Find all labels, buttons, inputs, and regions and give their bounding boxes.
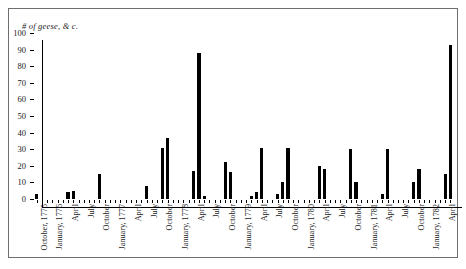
x-axis-tick xyxy=(283,200,284,203)
y-axis-tick-label: 100 xyxy=(13,28,26,38)
x-axis-tick xyxy=(52,200,53,203)
x-axis-tick xyxy=(309,200,310,203)
x-axis-tick xyxy=(126,200,127,203)
x-axis-tick xyxy=(94,200,95,203)
x-axis-tick xyxy=(136,200,137,203)
x-axis-tick xyxy=(424,200,425,203)
bar xyxy=(323,169,326,199)
x-axis-tick xyxy=(314,200,315,203)
bar xyxy=(381,194,384,199)
bar xyxy=(166,138,169,199)
bar xyxy=(255,192,258,199)
x-axis-tick xyxy=(84,200,85,203)
x-axis-tick xyxy=(37,200,38,203)
bar xyxy=(449,45,452,199)
bar xyxy=(417,169,420,199)
y-axis-tick-label: 70 xyxy=(18,78,27,88)
x-axis-tick xyxy=(440,200,441,203)
x-axis-tick xyxy=(340,200,341,203)
x-axis-tick xyxy=(278,200,279,203)
x-axis-tick xyxy=(435,200,436,203)
x-axis-tick xyxy=(346,200,347,203)
bar xyxy=(412,182,415,199)
y-axis-tick xyxy=(30,99,34,100)
bar xyxy=(192,171,195,199)
x-axis-tick xyxy=(398,200,399,203)
x-axis-tick xyxy=(267,200,268,203)
x-axis-tick xyxy=(73,200,74,203)
bar xyxy=(260,148,263,199)
x-axis-tick xyxy=(189,200,190,203)
x-axis-tick xyxy=(63,200,64,203)
bar xyxy=(276,194,279,199)
x-axis-tick xyxy=(298,200,299,203)
x-axis-tick xyxy=(173,200,174,203)
y-axis-tick-label: 20 xyxy=(18,161,27,171)
x-axis-tick xyxy=(382,200,383,203)
y-axis-tick-label: 30 xyxy=(18,144,27,154)
x-axis-tick xyxy=(408,200,409,203)
bar xyxy=(386,149,389,199)
y-axis-tick xyxy=(30,50,34,51)
x-axis-tick xyxy=(304,200,305,203)
x-axis-tick xyxy=(236,200,237,203)
x-axis-tick xyxy=(162,200,163,203)
x-axis-tick xyxy=(393,200,394,203)
y-axis-tick xyxy=(30,199,34,200)
x-axis-tick xyxy=(89,200,90,203)
x-axis-tick xyxy=(152,200,153,203)
x-axis-tick xyxy=(293,200,294,203)
x-axis-tick xyxy=(325,200,326,203)
x-axis-tick xyxy=(246,200,247,203)
x-axis-tick xyxy=(419,200,420,203)
bar xyxy=(197,53,200,199)
x-axis-tick xyxy=(115,200,116,203)
x-axis-tick xyxy=(183,200,184,203)
bar xyxy=(203,196,206,199)
x-axis-tick xyxy=(361,200,362,203)
x-axis-tick xyxy=(388,200,389,203)
y-axis-tick xyxy=(30,83,34,84)
x-axis-tick xyxy=(157,200,158,203)
y-axis-tick-label: 90 xyxy=(18,45,27,55)
y-axis-title: # of geese, & c. xyxy=(22,21,78,31)
x-axis-tick xyxy=(262,200,263,203)
x-axis-tick xyxy=(288,200,289,203)
x-axis-tick xyxy=(377,200,378,203)
y-axis-tick-label: 50 xyxy=(18,111,27,121)
x-axis-tick xyxy=(372,200,373,203)
y-axis-tick xyxy=(30,66,34,67)
x-axis-tick xyxy=(429,200,430,203)
y-axis-tick xyxy=(30,166,34,167)
x-axis-tick xyxy=(272,200,273,203)
x-axis-tick xyxy=(241,200,242,203)
x-axis-tick xyxy=(194,200,195,203)
bar xyxy=(98,174,101,199)
x-axis-tick xyxy=(58,200,59,203)
y-axis-tick-label: 80 xyxy=(18,61,27,71)
x-axis-tick xyxy=(99,200,100,203)
x-axis-tick xyxy=(403,200,404,203)
x-axis-tick xyxy=(450,200,451,203)
x-axis-tick xyxy=(445,200,446,203)
bar xyxy=(444,174,447,199)
x-axis-tick xyxy=(230,200,231,203)
x-axis-tick xyxy=(178,200,179,203)
bar xyxy=(145,186,148,199)
bar xyxy=(250,196,253,199)
plot-area xyxy=(42,41,461,207)
x-axis-tick xyxy=(42,200,43,203)
x-axis-tick xyxy=(141,200,142,203)
x-axis-tick xyxy=(257,200,258,203)
y-axis-tick-label: 10 xyxy=(18,177,27,187)
x-axis-tick xyxy=(351,200,352,203)
bar xyxy=(35,194,38,199)
x-axis-tick xyxy=(330,200,331,203)
x-axis-tick xyxy=(319,200,320,203)
x-axis-tick xyxy=(220,200,221,203)
x-axis-tick xyxy=(79,200,80,203)
bar xyxy=(286,148,289,199)
x-axis-tick xyxy=(367,200,368,203)
y-axis-tick xyxy=(30,133,34,134)
y-axis-tick xyxy=(30,182,34,183)
